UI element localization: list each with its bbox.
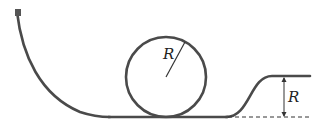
block: [15, 9, 21, 16]
loop-radius-label: R: [162, 45, 174, 63]
arrow-head-top: [282, 77, 287, 82]
arrow-head-bottom: [282, 112, 287, 117]
ramp-track: [17, 12, 110, 117]
exit-height-label: R: [287, 88, 299, 106]
loop-track-diagram: R R: [0, 0, 334, 127]
